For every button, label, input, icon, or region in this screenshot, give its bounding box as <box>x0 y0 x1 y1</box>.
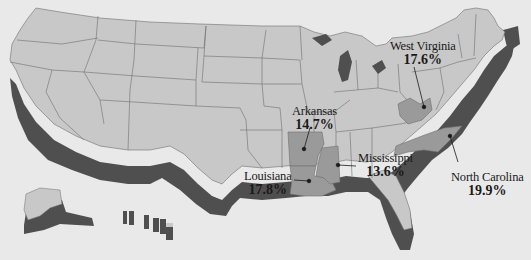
alaska <box>24 188 94 234</box>
state-value: 17.6% <box>390 53 456 68</box>
state-value: 17.8% <box>244 183 292 198</box>
us-map: West Virginia 17.6% Arkansas 14.7% Missi… <box>0 0 531 260</box>
label-north-carolina: North Carolina 19.9% <box>451 171 524 199</box>
label-mississippi: Mississippi 13.6% <box>358 152 413 180</box>
label-louisiana: Louisiana 17.8% <box>244 170 292 198</box>
state-value: 19.9% <box>451 184 524 199</box>
state-value: 14.7% <box>292 118 337 133</box>
hawaii <box>123 211 173 240</box>
label-arkansas: Arkansas 14.7% <box>292 105 337 133</box>
state-value: 13.6% <box>358 165 413 180</box>
label-west-virginia: West Virginia 17.6% <box>390 40 456 68</box>
